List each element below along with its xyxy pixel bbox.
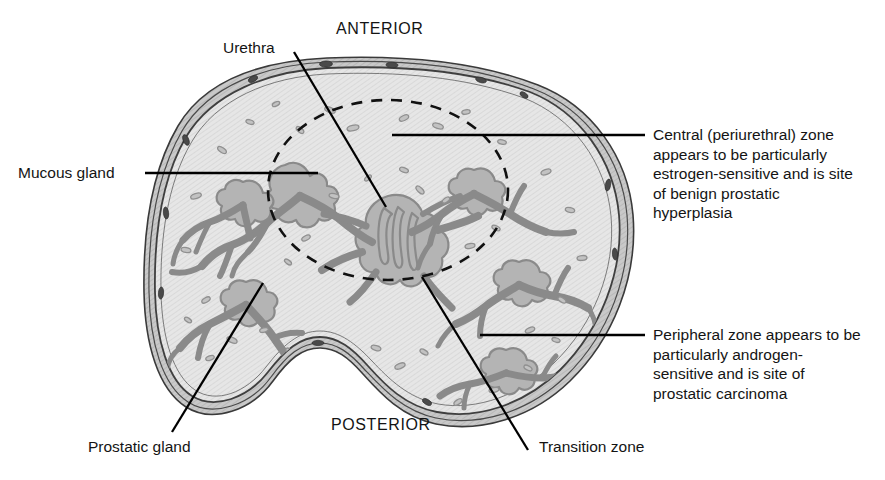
label-mucous-gland: Mucous gland	[18, 163, 115, 183]
orientation-label-anterior: ANTERIOR	[336, 19, 423, 39]
label-prostatic-gland: Prostatic gland	[88, 437, 191, 457]
orientation-label-posterior: POSTERIOR	[331, 415, 431, 435]
label-central-periurethral-zone: Central (periurethral) zone appears to b…	[653, 125, 863, 223]
label-peripheral-zone: Peripheral zone appears to be particular…	[653, 325, 863, 403]
prostate-diagram-figure: ANTERIOR POSTERIOR Urethra Mucous gland …	[0, 0, 885, 480]
prostate-cross-section-illustration	[0, 0, 885, 480]
label-urethra: Urethra	[223, 38, 275, 58]
label-transition-zone: Transition zone	[539, 437, 644, 457]
